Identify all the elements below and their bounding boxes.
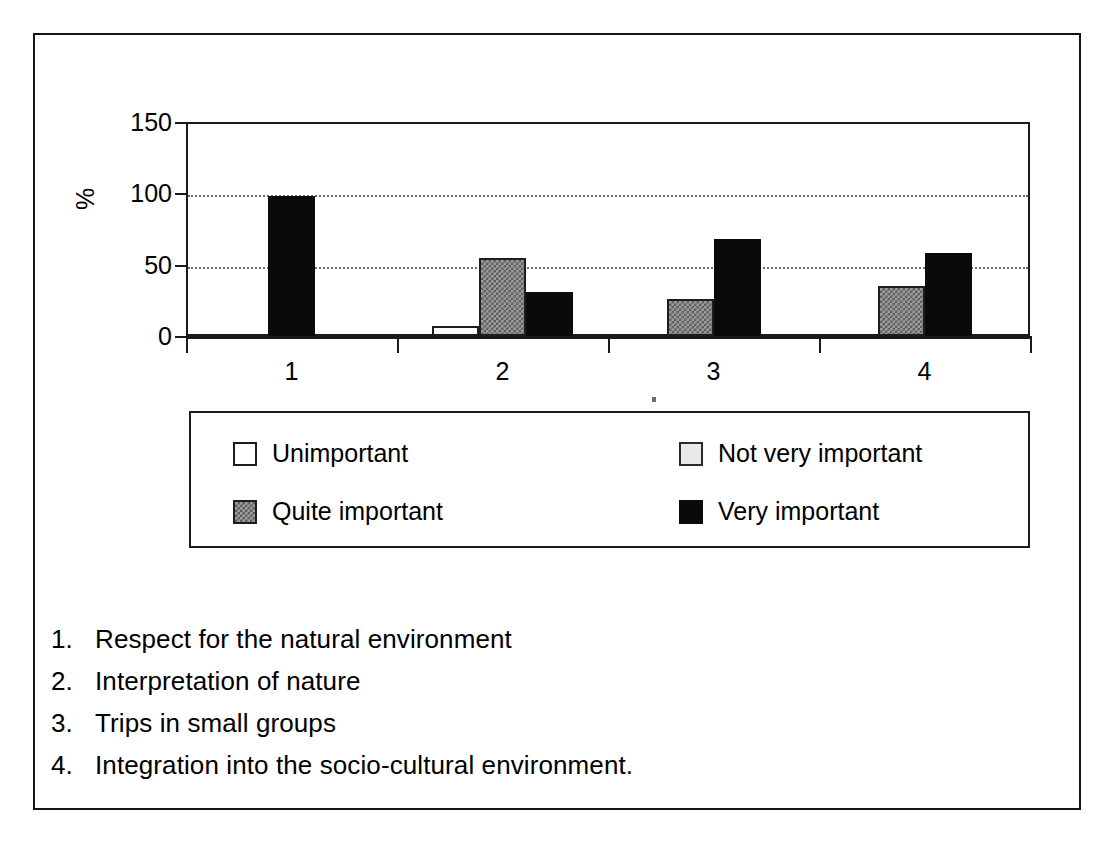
caption-list-item: 4.Integration into the socio-cultural en… <box>51 744 1051 786</box>
chart-legend: Unimportant Not very important Quite imp… <box>189 411 1030 548</box>
bar <box>667 299 714 336</box>
legend-label: Quite important <box>272 497 443 526</box>
y-tick-mark <box>175 336 186 338</box>
legend-label: Unimportant <box>272 439 408 468</box>
caption-number: 1. <box>51 618 95 660</box>
caption-number: 4. <box>51 744 95 786</box>
caption-text: Trips in small groups <box>95 702 1051 744</box>
bar <box>526 292 573 336</box>
caption-text: Interpretation of nature <box>95 660 1051 702</box>
caption-list-item: 2.Interpretation of nature <box>51 660 1051 702</box>
bar <box>432 326 479 336</box>
caption-number: 2. <box>51 660 95 702</box>
x-tick-label: 4 <box>918 357 932 386</box>
x-tick-mark <box>186 336 188 353</box>
legend-item-unimportant: Unimportant <box>233 439 408 468</box>
x-tick-mark <box>819 336 821 353</box>
bar <box>479 258 526 336</box>
x-tick-mark <box>397 336 399 353</box>
legend-item-not-very-important: Not very important <box>679 439 922 468</box>
y-axis-label: % <box>71 188 100 210</box>
caption-list-item: 1.Respect for the natural environment <box>51 618 1051 660</box>
y-tick-label: 50 <box>144 250 172 279</box>
scan-artifact <box>652 397 656 402</box>
category-caption-list: 1.Respect for the natural environment2.I… <box>51 618 1051 786</box>
bar <box>714 239 761 336</box>
legend-label: Very important <box>718 497 879 526</box>
x-tick-label: 1 <box>285 357 299 386</box>
bar <box>268 196 315 336</box>
bars-layer <box>186 122 1030 336</box>
x-tick-label: 2 <box>496 357 510 386</box>
bar <box>878 286 925 336</box>
page-frame: % 050100150 1234 Unimportant Not very im… <box>33 33 1081 810</box>
x-tick-mark <box>1030 336 1032 353</box>
x-tick-label: 3 <box>707 357 721 386</box>
legend-item-very-important: Very important <box>679 497 879 526</box>
legend-item-quite-important: Quite important <box>233 497 443 526</box>
legend-swatch-not-very-important-icon <box>679 442 703 466</box>
legend-label: Not very important <box>718 439 922 468</box>
y-tick-mark <box>175 122 186 124</box>
legend-swatch-quite-important-icon <box>233 500 257 524</box>
y-tick-mark <box>175 265 186 267</box>
y-tick-label: 150 <box>130 108 172 137</box>
bar-chart-figure: % 050100150 1234 <box>35 35 1083 415</box>
y-axis-ticks: 050100150 <box>131 122 186 336</box>
y-tick-label: 0 <box>158 322 172 351</box>
caption-text: Respect for the natural environment <box>95 618 1051 660</box>
caption-list-item: 3.Trips in small groups <box>51 702 1051 744</box>
bar <box>925 253 972 336</box>
caption-number: 3. <box>51 702 95 744</box>
legend-swatch-unimportant-icon <box>233 442 257 466</box>
y-tick-label: 100 <box>130 179 172 208</box>
caption-text: Integration into the socio-cultural envi… <box>95 744 1051 786</box>
x-tick-mark <box>608 336 610 353</box>
legend-swatch-very-important-icon <box>679 500 703 524</box>
y-tick-mark <box>175 193 186 195</box>
